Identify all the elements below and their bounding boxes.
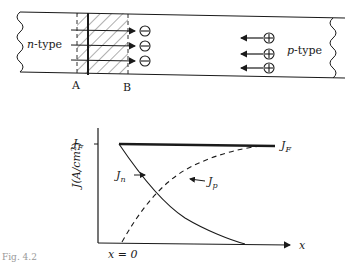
x-origin-label: x = 0 — [108, 249, 137, 260]
bar-top-edge — [20, 12, 345, 18]
hole-icon — [264, 63, 274, 73]
total-current-line — [119, 144, 275, 146]
electron-icon — [140, 26, 150, 36]
hole-icon — [264, 49, 274, 59]
electron-current-curve — [119, 144, 245, 244]
jp-pointer-arrow — [190, 179, 205, 181]
electron-current-label: Jn — [116, 170, 126, 181]
hole-icon — [264, 33, 274, 43]
n-type-label: n-type — [27, 39, 62, 50]
electron-icon — [140, 56, 150, 66]
hole-flow — [241, 33, 274, 73]
hatched-region — [77, 13, 128, 74]
y-axis-label: J(A/cm2) — [70, 142, 83, 188]
x-axis — [98, 243, 290, 245]
electron-icon — [140, 41, 150, 51]
hole-current-curve — [122, 146, 262, 242]
boundary-a-label: A — [72, 80, 80, 91]
hole-current-label: Jp — [208, 176, 218, 187]
bar-bottom-edge — [20, 72, 345, 78]
x-axis-label: x — [299, 240, 305, 251]
current-density-plot — [94, 128, 290, 245]
left-break-icon — [17, 12, 23, 72]
boundary-b-label: B — [123, 82, 131, 93]
total-current-label: JF — [281, 140, 291, 151]
right-break-icon — [330, 18, 336, 78]
p-type-label: p-type — [287, 45, 322, 56]
figure-caption-fragment: Fig. 4.2 — [2, 252, 37, 262]
